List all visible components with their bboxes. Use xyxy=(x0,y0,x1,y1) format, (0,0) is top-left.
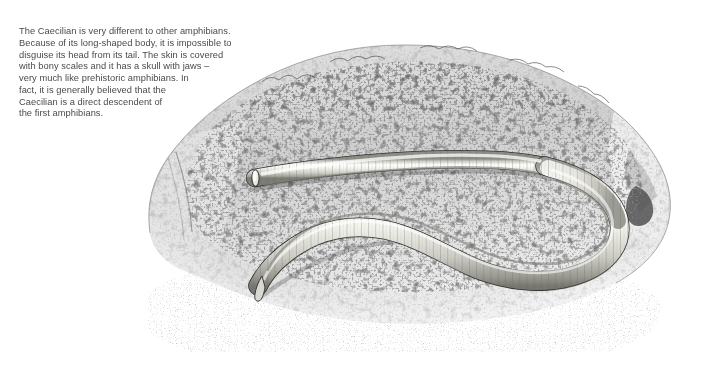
caecilian-body xyxy=(230,140,650,310)
caption-text: The Caecilian is very different to other… xyxy=(19,26,249,120)
illustration-page: The Caecilian is very different to other… xyxy=(0,0,716,382)
caecilian-head xyxy=(252,170,259,187)
caption-block: The Caecilian is very different to other… xyxy=(19,26,249,120)
